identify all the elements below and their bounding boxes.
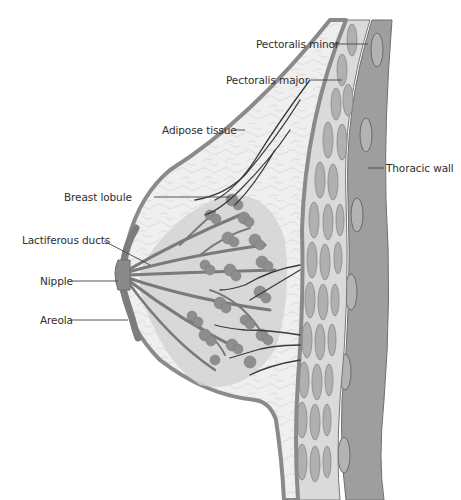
label-areola: Areola: [40, 314, 73, 326]
label-adipose-tissue: Adipose tissue: [162, 124, 237, 136]
label-breast-lobule: Breast lobule: [64, 191, 132, 203]
label-lactiferous-ducts: Lactiferous ducts: [22, 234, 110, 246]
label-thoracic-wall: Thoracic wall: [386, 162, 454, 174]
label-pectoralis-major: Pectoralis major: [226, 74, 309, 86]
label-pectoralis-minor: Pectoralis minor: [256, 38, 339, 50]
label-nipple: Nipple: [40, 275, 73, 287]
